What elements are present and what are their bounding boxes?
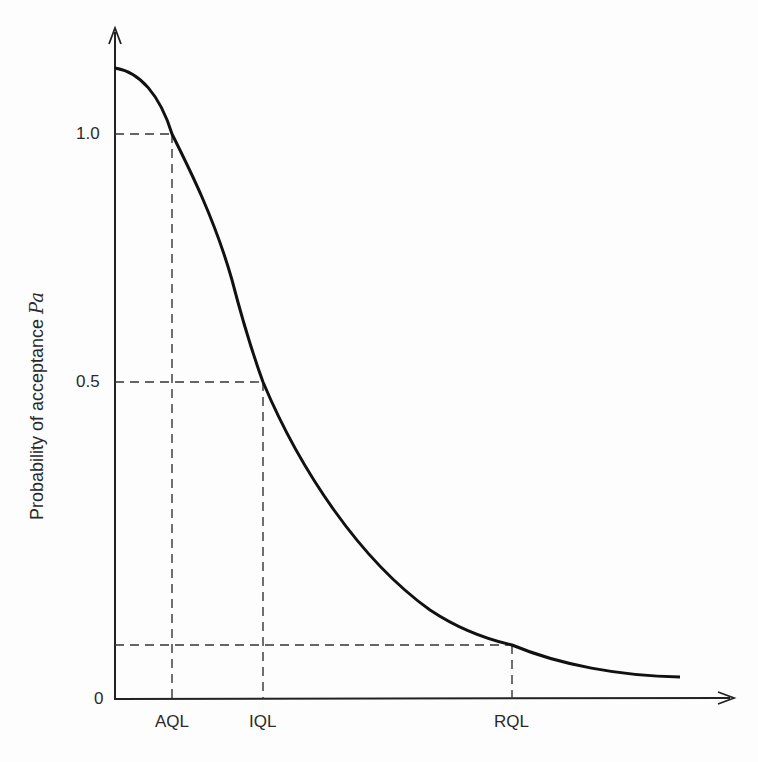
y-tick-1: 1.0 (76, 124, 100, 144)
y-axis-label-text: Probability of acceptance (27, 319, 47, 520)
x-tick-iql: IQL (249, 712, 276, 732)
y-axis-label: Probability of acceptance Pa (26, 251, 48, 561)
oc-curve (115, 68, 680, 677)
y-axis-label-symbol: Pa (26, 292, 47, 314)
x-axis (115, 698, 730, 699)
y-tick-05: 0.5 (76, 372, 100, 392)
x-tick-rql: RQL (494, 712, 529, 732)
oc-curve-chart (0, 0, 758, 762)
y-tick-0: 0 (94, 689, 103, 709)
x-tick-aql: AQL (155, 712, 189, 732)
